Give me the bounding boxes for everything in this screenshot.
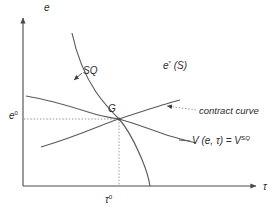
v-function-lead: V (e, τ) = V [192, 135, 241, 146]
contract-curve-leader-arrow [167, 106, 196, 110]
v-function-label: V (e, τ) = VSQ [192, 136, 250, 146]
tick-tau0-superscript: 0 [109, 193, 112, 200]
sq-curve-label: SQ [83, 66, 97, 76]
equilibrium-point-label: G [108, 104, 116, 114]
sq-leader-arrow [74, 73, 82, 80]
e-star-tail: (S) [171, 60, 187, 71]
v-function-superscript: SQ [241, 134, 250, 141]
y-axis-tick-label-e0: e0 [9, 111, 18, 121]
y-axis-label: e [44, 3, 50, 13]
x-axis-label: τ [263, 182, 267, 192]
economics-diagram-figure: e τ e0 τ0 SQ e* (S) G contract curve V (… [0, 0, 277, 215]
e-star-s-label: e* (S) [163, 61, 187, 71]
x-axis-tick-label-tau0: τ0 [105, 195, 112, 205]
equilibrium-point [118, 118, 121, 121]
v-curve-leader-line [179, 140, 190, 141]
tick-e0-superscript: 0 [15, 109, 18, 116]
contract-curve-label: contract curve [199, 106, 259, 116]
